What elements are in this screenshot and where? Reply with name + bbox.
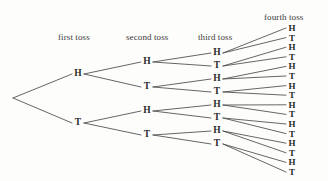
- tree-node-n-HHT: T: [214, 61, 220, 71]
- tree-node-n-HTH: H: [213, 74, 220, 84]
- branch-line: [223, 131, 286, 143]
- coin-toss-tree-diagram: first tosssecond tossthird tossfourth to…: [0, 0, 328, 181]
- branch-line: [153, 62, 211, 66]
- branch-line: [153, 105, 211, 111]
- branch-line: [223, 38, 286, 53]
- tree-node-n-TTT: T: [214, 139, 220, 149]
- branch-line: [153, 135, 211, 144]
- column-label-first-toss: first toss: [58, 32, 90, 42]
- branch-line: [223, 144, 286, 162]
- tree-node-n-H: H: [74, 69, 81, 79]
- tree-node-n-T: T: [75, 118, 81, 128]
- branch-line: [153, 87, 211, 92]
- tree-branch-lines: [0, 0, 328, 181]
- branch-line: [223, 28, 286, 53]
- branch-line: [84, 111, 141, 123]
- branch-line: [223, 118, 286, 124]
- branch-line: [223, 105, 286, 114]
- branch-line: [153, 131, 211, 135]
- tree-node-n-TT: T: [144, 130, 150, 140]
- branch-line: [84, 123, 141, 135]
- tree-node-n-TTH: H: [213, 126, 220, 136]
- branch-line: [223, 144, 286, 172]
- tree-node-n-HTT: T: [214, 87, 220, 97]
- tree-node-n-THT: T: [214, 113, 220, 123]
- branch-line: [223, 92, 286, 95]
- tree-node-n-HT: T: [144, 82, 150, 92]
- branch-line: [223, 57, 286, 66]
- branch-line: [223, 118, 286, 134]
- branch-line: [84, 74, 141, 87]
- column-label-third-toss: third toss: [198, 32, 232, 42]
- tree-node-n-THH: H: [213, 100, 220, 110]
- branch-line: [13, 98, 72, 123]
- tree-node-n-HH: H: [143, 57, 150, 67]
- branch-line: [223, 47, 286, 66]
- column-label-second-toss: second toss: [126, 32, 168, 42]
- branch-line: [13, 74, 72, 98]
- branch-line: [223, 86, 286, 92]
- branch-line: [153, 111, 211, 118]
- branch-line: [153, 79, 211, 87]
- branch-line: [223, 131, 286, 153]
- branch-line: [84, 62, 141, 74]
- tree-node-n-HHH: H: [213, 48, 220, 58]
- tree-node-n-TTTT: T: [289, 168, 295, 177]
- tree-node-n-TH: H: [143, 106, 150, 116]
- branch-line: [153, 53, 211, 62]
- column-label-fourth-toss: fourth toss: [264, 12, 303, 22]
